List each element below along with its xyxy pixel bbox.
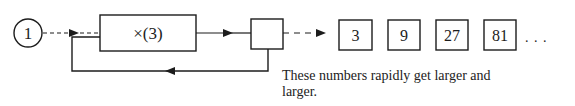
svg-text:3: 3: [352, 27, 360, 44]
sequence-item: 9: [388, 20, 420, 50]
multiply-box: ×(3): [100, 15, 196, 51]
feedback-arrowhead-icon: [165, 67, 175, 75]
sequence-item: 81: [484, 20, 516, 50]
start-node: 1: [14, 19, 42, 47]
sequence-item: 27: [436, 20, 468, 50]
svg-text:81: 81: [492, 27, 508, 44]
operation-label: ×(3): [133, 24, 162, 43]
output-box: [251, 19, 283, 49]
sequence-item: 3: [339, 20, 372, 50]
caption: These numbers rapidly get larger and lar…: [282, 68, 522, 100]
feedback-loop-path: [72, 37, 268, 75]
ellipsis: . . .: [525, 30, 548, 45]
start-value: 1: [24, 24, 33, 43]
svg-text:9: 9: [400, 27, 408, 44]
svg-text:27: 27: [444, 27, 460, 44]
